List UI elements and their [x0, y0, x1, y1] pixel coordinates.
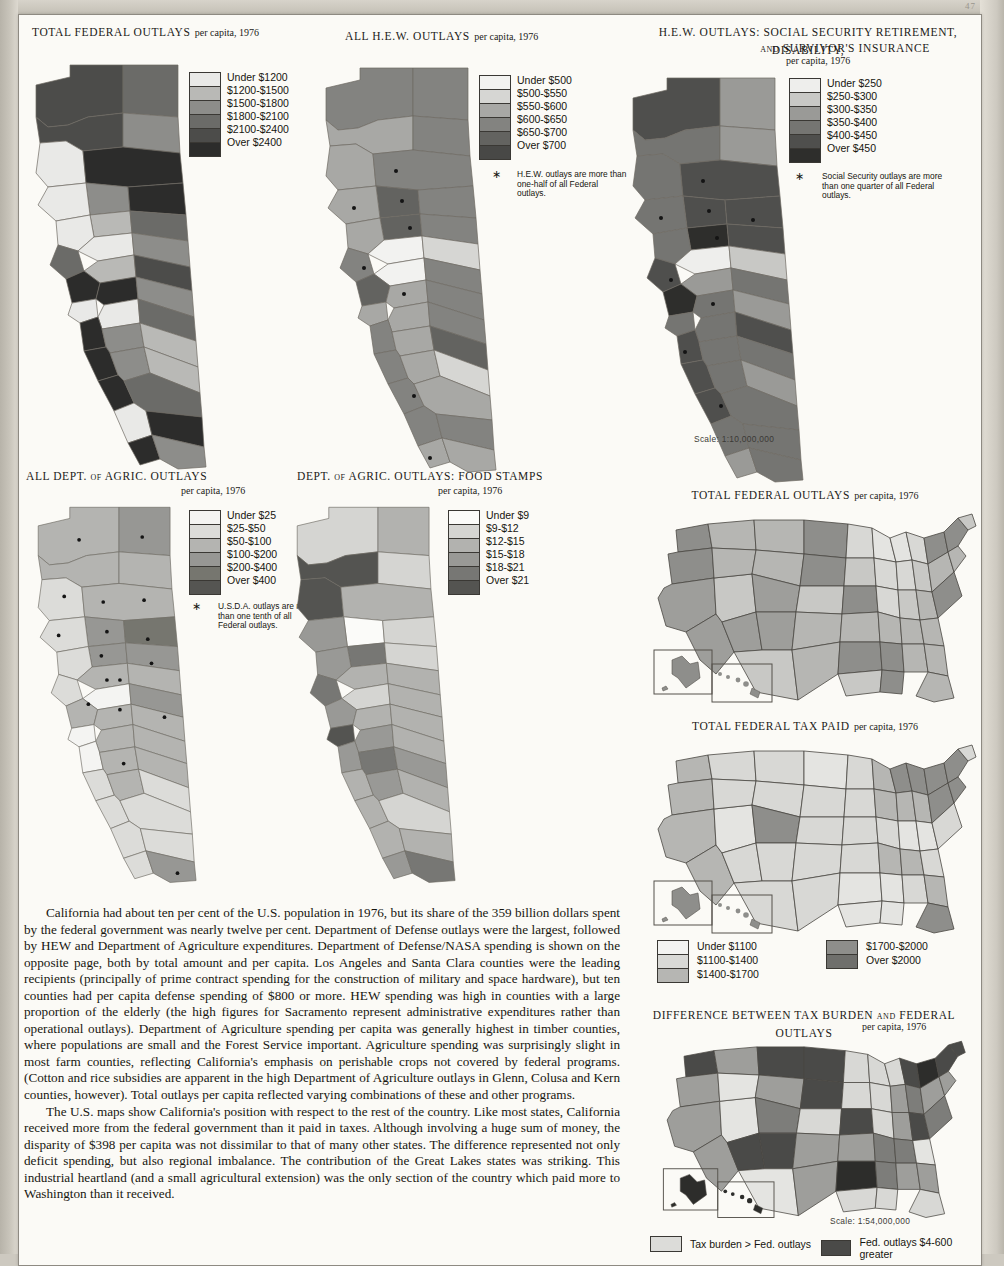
legend-label: $400-$450 — [827, 129, 882, 142]
legend-label: $200-$400 — [227, 561, 277, 574]
legend-label: $550-$600 — [517, 100, 572, 113]
map-title-ca-agric-outlays: ALL DEPT. of AGRIC. OUTLAYS — [26, 466, 207, 484]
legend-label: Over $450 — [827, 142, 882, 155]
legend-labels: Under $250 $250-$300 $300-$350 $350-$400… — [827, 77, 882, 155]
legend-label: $600-$650 — [517, 113, 572, 126]
legend-swatch — [190, 143, 220, 156]
legend-label: $1500-$1800 — [227, 97, 289, 110]
legend-swatch — [190, 553, 220, 567]
ca-map-agric-outlays — [24, 498, 214, 888]
legend-swatch — [790, 121, 820, 135]
legend-swatches — [448, 510, 480, 595]
us-map-tax-paid — [628, 733, 980, 941]
legend-item: Fed. outlays $4-600 greater — [821, 1236, 982, 1260]
legend-swatch — [190, 101, 220, 115]
legend-label: $1700-$2000 — [866, 940, 928, 953]
legend-swatch — [480, 146, 510, 159]
us-map-total-outlays — [628, 502, 980, 710]
legend-us-tax-left: Under $1100 $1100-$1400 $1400-$1700 — [657, 940, 689, 983]
legend-swatch — [190, 129, 220, 143]
map-scale-us: Scale: 1:54,000,000 — [830, 1216, 910, 1226]
paragraph-2: The U.S. maps show California's position… — [24, 1104, 620, 1203]
legend-swatch — [480, 132, 510, 146]
map-title-us-total-outlays: TOTAL FEDERAL OUTLAYS per capita, 1976 — [630, 485, 980, 503]
legend-label: $250-$300 — [827, 90, 882, 103]
page-left-gutter — [0, 0, 18, 1254]
legend-swatch — [190, 525, 220, 539]
legend-label: Under $25 — [227, 509, 277, 522]
paragraph-1: California had about ten per cent of the… — [24, 905, 620, 1104]
legend-swatch — [480, 118, 510, 132]
legend-swatch — [449, 539, 479, 553]
map-title-ca-hew-outlays: ALL H.E.W. OUTLAYS per capita, 1976 — [345, 26, 538, 44]
legend-label: Under $500 — [517, 74, 572, 87]
us-map-difference — [628, 1030, 980, 1225]
asterisk-icon: ∗ — [192, 600, 201, 613]
legend-labels: Under $9 $9-$12 $12-$15 $15-$18 $18-$21 … — [486, 509, 529, 587]
legend-swatch — [190, 73, 220, 87]
page-right-gutter — [980, 0, 1004, 1254]
legend-label: Tax burden > Fed. outlays — [690, 1238, 811, 1250]
legend-swatch — [190, 581, 220, 594]
legend-label: $650-$700 — [517, 126, 572, 139]
legend-note-hew: H.E.W. outlays are more than one-half of… — [517, 170, 629, 199]
legend-label: $50-$100 — [227, 535, 277, 548]
map-scale-california: Scale: 1:10,000,000 — [694, 434, 774, 444]
page-top-edge — [0, 0, 1004, 14]
asterisk-icon: ∗ — [795, 170, 804, 183]
legend-label: $12-$15 — [486, 535, 529, 548]
map-subtitle-ca-food-stamps: per capita, 1976 — [438, 485, 502, 496]
legend-labels: Under $500 $500-$550 $550-$600 $600-$650… — [517, 74, 572, 152]
legend-swatches — [189, 72, 221, 157]
legend-label: $1100-$1400 — [697, 954, 758, 967]
legend-swatch — [449, 581, 479, 594]
legend-swatch — [480, 90, 510, 104]
legend-label: $18-$21 — [486, 561, 529, 574]
legend-label: Over $400 — [227, 574, 277, 587]
legend-swatches — [789, 78, 821, 163]
legend-swatch — [449, 567, 479, 581]
legend-swatch — [790, 135, 820, 149]
legend-us-tax-right: $1700-$2000 Over $2000 — [826, 940, 858, 969]
legend-swatch — [650, 1236, 682, 1252]
legend-swatch — [826, 954, 858, 969]
map-title-us-tax-paid: TOTAL FEDERAL TAX PAID per capita, 1976 — [630, 716, 980, 734]
legend-label: Over $2400 — [227, 136, 289, 149]
legend-label: $100-$200 — [227, 548, 277, 561]
legend-label: Under $1200 — [227, 71, 289, 84]
legend-swatch — [790, 79, 820, 93]
legend-swatch — [449, 511, 479, 525]
legend-label: $300-$350 — [827, 103, 882, 116]
legend-swatches — [479, 75, 511, 160]
legend-label: $9-$12 — [486, 522, 529, 535]
legend-swatch — [657, 968, 689, 983]
page-folio: 47 — [965, 1, 976, 11]
map-title-ca-total-outlays: TOTAL FEDERAL OUTLAYS per capita, 1976 — [32, 22, 259, 40]
legend-swatch — [190, 115, 220, 129]
ca-map-social-security — [625, 68, 815, 488]
legend-label: Under $250 — [827, 77, 882, 90]
legend-label: $350-$400 — [827, 116, 882, 129]
legend-swatch — [657, 940, 689, 954]
legend-label: $1800-$2100 — [227, 110, 289, 123]
ca-map-food-stamps — [283, 498, 473, 888]
legend-swatch — [826, 940, 858, 954]
legend-swatches — [189, 510, 221, 595]
legend-swatch — [190, 511, 220, 525]
legend-swatch — [790, 149, 820, 162]
legend-note-social-security: Social Security outlays are more than on… — [822, 172, 952, 201]
legend-labels: Under $25 $25-$50 $50-$100 $100-$200 $20… — [227, 509, 277, 587]
legend-label: Under $1100 — [697, 940, 757, 953]
legend-label: $2100-$2400 — [227, 123, 289, 136]
map-title-ca-food-stamps: DEPT. of AGRIC. OUTLAYS: FOOD STAMPS — [297, 466, 543, 484]
legend-swatch — [657, 954, 689, 968]
legend-swatch — [790, 93, 820, 107]
legend-label: $500-$550 — [517, 87, 572, 100]
map-subtitle-ca-social-security: per capita, 1976 — [786, 55, 850, 66]
legend-swatch — [480, 76, 510, 90]
map-subtitle-ca-agric-outlays: per capita, 1976 — [181, 485, 245, 496]
legend-swatch — [449, 525, 479, 539]
legend-label: Under $9 — [486, 509, 529, 522]
legend-swatch — [480, 104, 510, 118]
